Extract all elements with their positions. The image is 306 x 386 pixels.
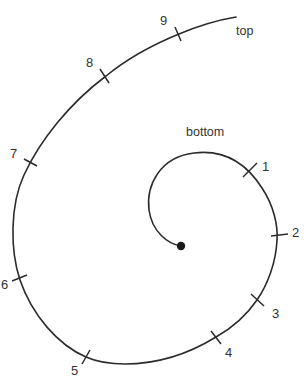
tick-mark-3 [251, 294, 264, 306]
spiral-diagram: 1 2 3 4 5 6 7 8 9 top bottom [0, 0, 306, 386]
tick-mark-4 [211, 331, 221, 344]
tick-mark-5 [82, 350, 90, 364]
top-label: top [236, 24, 253, 38]
tick-label-5: 5 [71, 363, 78, 378]
tick-label-2: 2 [292, 225, 299, 240]
tick-label-4: 4 [225, 345, 232, 360]
tick-label-7: 7 [10, 146, 17, 161]
tick-mark-8 [100, 69, 109, 83]
spiral-start-dot [177, 242, 185, 250]
tick-label-8: 8 [86, 55, 93, 70]
spiral-curve [13, 17, 277, 364]
tick-mark-1 [243, 163, 257, 177]
tick-mark-7 [24, 159, 37, 166]
tick-mark-2 [271, 234, 288, 236]
tick-label-1: 1 [262, 159, 269, 174]
bottom-label: bottom [186, 125, 224, 139]
tick-label-9: 9 [160, 13, 167, 28]
tick-label-6: 6 [1, 277, 8, 292]
tick-label-3: 3 [272, 306, 279, 321]
